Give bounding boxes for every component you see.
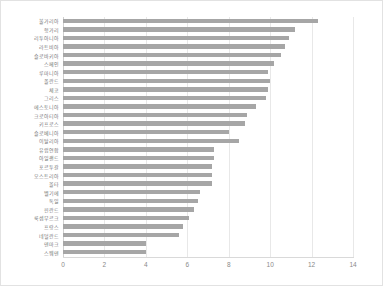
x-tick-label: 10 — [267, 260, 274, 269]
x-tick-label: 4 — [144, 260, 148, 269]
bar-오스트리아 — [63, 173, 212, 177]
bar-키프로스 — [63, 121, 245, 125]
gridline-x-14 — [353, 17, 354, 257]
bar-row — [63, 111, 353, 120]
category-axis-labels: 불가리아헝가리리투아니아라트비아슬로바키아스페인루마니아폴란드체코그리스에스토니… — [3, 17, 61, 257]
bar-프랑스 — [63, 224, 183, 228]
bar-스웨덴 — [63, 250, 146, 254]
bar-포르투갈 — [63, 164, 212, 168]
bar-독일 — [63, 199, 198, 203]
bar-체코 — [63, 87, 268, 91]
bar-루마니아 — [63, 70, 268, 74]
bar-불가리아 — [63, 19, 318, 23]
bar-row — [63, 197, 353, 206]
bar-row — [63, 171, 353, 180]
category-label: 아일랜드 — [39, 155, 59, 161]
x-axis-line — [63, 257, 354, 258]
x-tick-label: 12 — [308, 260, 315, 269]
bar-유럽연합 — [63, 147, 214, 151]
bar-스페인 — [63, 61, 274, 65]
category-label: 슬로바키아 — [34, 53, 59, 59]
bar-row — [63, 137, 353, 146]
x-tick-label: 14 — [349, 260, 356, 269]
category-label: 벨기에 — [44, 190, 59, 196]
bar-핀란드 — [63, 207, 194, 211]
category-label: 독일 — [49, 198, 59, 204]
bar-row — [63, 214, 353, 223]
x-tick-label: 2 — [103, 260, 107, 269]
bar-슬로바키아 — [63, 53, 281, 57]
category-label: 스웨덴 — [44, 250, 59, 256]
bar-row — [63, 17, 353, 26]
x-tick-label: 6 — [185, 260, 189, 269]
bar-row — [63, 223, 353, 232]
category-label: 불가리아 — [39, 18, 59, 24]
bar-row — [63, 51, 353, 60]
x-tick-label: 0 — [61, 260, 65, 269]
category-label: 유럽연합 — [39, 147, 59, 153]
category-label: 프랑스 — [44, 224, 59, 230]
bar-row — [63, 231, 353, 240]
bar-이탈리아 — [63, 139, 239, 143]
bar-row — [63, 188, 353, 197]
bar-chart-figure: 불가리아헝가리리투아니아라트비아슬로바키아스페인루마니아폴란드체코그리스에스토니… — [0, 0, 383, 286]
bar-슬로베니아 — [63, 130, 229, 134]
bar-룩셈부르크 — [63, 216, 189, 220]
bar-아일랜드 — [63, 156, 214, 160]
category-label: 몰타 — [49, 181, 59, 187]
bar-라트비아 — [63, 44, 285, 48]
category-label: 그리스 — [44, 95, 59, 101]
bar-row — [63, 146, 353, 155]
category-label: 네덜란드 — [39, 233, 59, 239]
category-label: 크로아티아 — [34, 113, 59, 119]
category-label: 리투아니아 — [34, 35, 59, 41]
bar-row — [63, 248, 353, 257]
category-label: 스페인 — [44, 61, 59, 67]
category-label: 폴란드 — [44, 78, 59, 84]
bar-row — [63, 26, 353, 35]
bar-덴마크 — [63, 241, 146, 245]
bar-크로아티아 — [63, 113, 247, 117]
bar-row — [63, 86, 353, 95]
bar-row — [63, 163, 353, 172]
bar-헝가리 — [63, 27, 295, 31]
bar-네덜란드 — [63, 233, 179, 237]
category-label: 이탈리아 — [39, 138, 59, 144]
category-label: 슬로베니아 — [34, 130, 59, 136]
bar-row — [63, 94, 353, 103]
plot-area — [63, 17, 353, 257]
category-label: 오스트리아 — [34, 173, 59, 179]
bar-row — [63, 128, 353, 137]
category-label: 핀란드 — [44, 207, 59, 213]
category-label: 덴마크 — [44, 241, 59, 247]
category-label: 포르투갈 — [39, 164, 59, 170]
category-label: 체코 — [49, 87, 59, 93]
bar-row — [63, 206, 353, 215]
bar-row — [63, 60, 353, 69]
bar-row — [63, 240, 353, 249]
bar-row — [63, 77, 353, 86]
category-label: 키프로스 — [39, 121, 59, 127]
x-axis-tick-labels: 02468101214 — [1, 260, 383, 274]
bar-벨기에 — [63, 190, 200, 194]
category-label: 룩셈부르크 — [34, 215, 59, 221]
x-tick-label: 8 — [227, 260, 231, 269]
bar-폴란드 — [63, 79, 270, 83]
bar-리투아니아 — [63, 36, 289, 40]
bar-몰타 — [63, 181, 212, 185]
category-label: 헝가리 — [44, 27, 59, 33]
bar-그리스 — [63, 96, 266, 100]
bar-row — [63, 180, 353, 189]
bar-row — [63, 68, 353, 77]
bar-row — [63, 34, 353, 43]
bar-row — [63, 154, 353, 163]
category-label: 라트비아 — [39, 44, 59, 50]
bar-row — [63, 120, 353, 129]
bar-에스토니아 — [63, 104, 256, 108]
category-label: 에스토니아 — [34, 104, 59, 110]
bar-row — [63, 43, 353, 52]
bar-row — [63, 103, 353, 112]
category-label: 루마니아 — [39, 70, 59, 76]
